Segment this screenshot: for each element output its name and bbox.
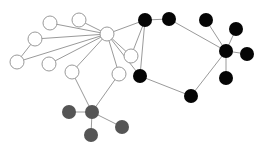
node-w2 — [72, 13, 86, 27]
edge-b1-b3 — [140, 20, 145, 76]
node-b2 — [162, 12, 176, 26]
node-w4 — [10, 55, 24, 69]
node-b5 — [199, 13, 213, 27]
node-b7 — [240, 47, 254, 61]
node-w_hub — [100, 27, 114, 41]
edge-b3-b4 — [140, 76, 191, 96]
edge-b2-b_hub — [169, 19, 226, 51]
node-b_hub — [219, 44, 233, 58]
node-w1 — [43, 16, 57, 30]
node-b8 — [219, 71, 233, 85]
node-b3 — [133, 69, 147, 83]
node-g3 — [115, 120, 129, 134]
edge-w_hub-w3 — [35, 34, 107, 39]
node-w8 — [112, 67, 126, 81]
node-b1 — [138, 13, 152, 27]
node-w3 — [28, 32, 42, 46]
node-w5 — [42, 57, 56, 71]
node-w7 — [124, 49, 138, 63]
node-g1 — [62, 105, 76, 119]
network-graph — [0, 0, 264, 153]
node-b6 — [229, 22, 243, 36]
node-w6 — [65, 65, 79, 79]
node-b4 — [184, 89, 198, 103]
nodes-layer — [10, 12, 254, 142]
node-g_hub — [85, 105, 99, 119]
edges-layer — [17, 19, 247, 135]
node-g2 — [84, 128, 98, 142]
